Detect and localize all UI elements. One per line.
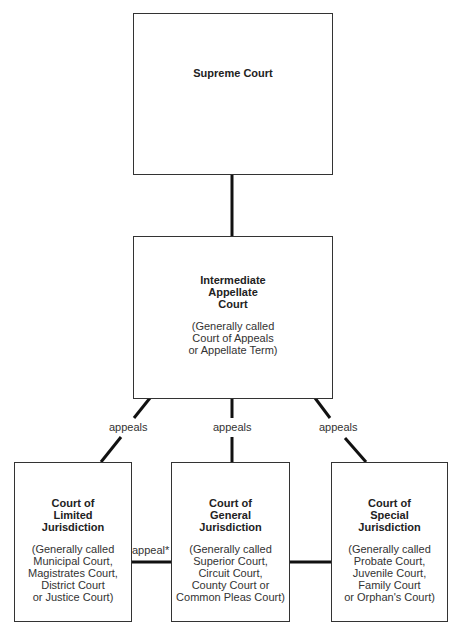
general-court-title: Court of General Jurisdiction [172,497,289,533]
special-jurisdiction-court-box: Court of Special Jurisdiction (Generally… [331,462,448,622]
general-court-subtitle: (Generally called Superior Court, Circui… [172,543,289,603]
limited-court-subtitle: (Generally called Municipal Court, Magis… [15,543,131,603]
supreme-court-title: Supreme Court [134,67,332,79]
appeals-label-limited: appeals [108,421,149,433]
intermediate-court-subtitle: (Generally called Court of Appeals or Ap… [134,320,332,356]
appeals-label-special: appeals [318,421,359,433]
limited-court-title: Court of Limited Jurisdiction [15,497,131,533]
special-court-title: Court of Special Jurisdiction [332,497,447,533]
intermediate-appellate-court-box: Intermediate Appellate Court (Generally … [133,236,333,399]
general-jurisdiction-court-box: Court of General Jurisdiction (Generally… [171,462,290,622]
appeals-label-general: appeals [212,421,253,433]
intermediate-court-title: Intermediate Appellate Court [134,274,332,310]
supreme-court-box: Supreme Court [133,13,333,175]
appeal-label-limited-to-general: appeal* [132,544,169,556]
limited-jurisdiction-court-box: Court of Limited Jurisdiction (Generally… [14,462,132,622]
special-court-subtitle: (Generally called Probate Court, Juvenil… [332,543,447,603]
